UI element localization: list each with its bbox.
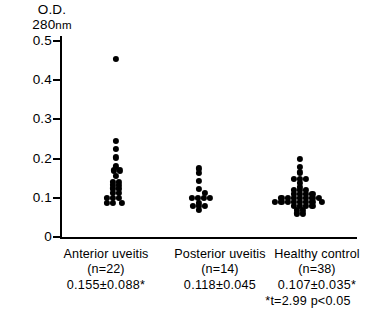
data-point <box>196 206 202 212</box>
y-axis-tick-label: 0 <box>8 230 52 244</box>
significance-footnote: *t=2.99 p<0.05 <box>248 294 368 308</box>
y-axis-title-unit: nm <box>55 19 71 31</box>
group-n-posterior-uveitis: (n=14) <box>158 262 282 277</box>
data-point <box>207 195 213 201</box>
data-point <box>113 146 119 152</box>
data-point <box>319 199 325 205</box>
group-name-posterior-uveitis: Posterior uveitis <box>158 247 282 262</box>
y-axis-tick <box>53 236 60 238</box>
data-point <box>300 210 306 216</box>
plot-area <box>60 36 357 237</box>
group-n-healthy-control: (n=38) <box>266 262 368 277</box>
y-axis-tick-label: 0.2 <box>8 152 52 166</box>
data-point <box>309 203 315 209</box>
data-point <box>113 56 119 62</box>
y-axis-tick-label: 0.4 <box>8 73 52 87</box>
data-point <box>113 138 119 144</box>
y-axis-tick-label: 0.5 <box>8 34 52 48</box>
y-axis-tick-label: 0.3 <box>8 112 52 126</box>
group-name-anterior-uveitis: Anterior uveitis <box>45 247 167 262</box>
data-point <box>297 156 303 162</box>
data-point <box>202 203 208 209</box>
data-point <box>117 167 123 173</box>
group-caption-anterior-uveitis: Anterior uveitis (n=22) 0.155±0.088* <box>45 247 167 293</box>
data-point <box>303 176 309 182</box>
group-stat-anterior-uveitis: 0.155±0.088* <box>45 278 167 293</box>
y-axis-tick <box>53 118 60 120</box>
group-name-healthy-control: Healthy control <box>266 247 368 262</box>
y-axis-tick <box>53 158 60 160</box>
y-axis-tick <box>53 197 60 199</box>
group-caption-posterior-uveitis: Posterior uveitis (n=14) 0.118±0.045 <box>158 247 282 293</box>
group-n-anterior-uveitis: (n=22) <box>45 262 167 277</box>
y-axis-tick-label: 0.1 <box>8 191 52 205</box>
data-point <box>196 178 202 184</box>
data-point <box>297 169 303 175</box>
data-point <box>118 199 124 205</box>
scatter-plot-figure: O.D. 280nm 0.50.40.30.20.10 Anterior uve… <box>0 0 370 316</box>
y-axis-tick <box>53 79 60 81</box>
data-point <box>110 199 116 205</box>
group-stat-healthy-control: 0.107±0.035* <box>266 278 368 293</box>
data-point <box>196 170 202 176</box>
y-axis-tick <box>53 40 60 42</box>
group-stat-posterior-uveitis: 0.118±0.045 <box>158 278 282 293</box>
group-caption-healthy-control: Healthy control (n=38) 0.107±0.035* <box>266 247 368 293</box>
data-point <box>113 154 119 160</box>
